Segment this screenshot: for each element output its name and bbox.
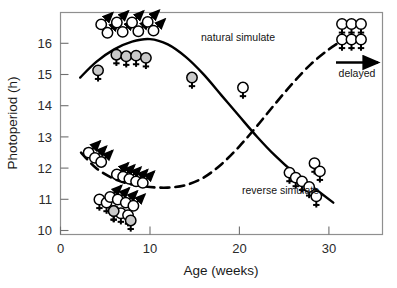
female-symbol-marker [356, 34, 366, 50]
male-symbol-marker [96, 13, 113, 30]
female-symbol-marker [337, 19, 347, 35]
y-tick-13: 13 [38, 130, 52, 145]
marker-group-reverse-mid-male-row [112, 163, 155, 188]
male-symbol-marker [127, 11, 144, 28]
female-symbol-marker [109, 206, 119, 222]
chart-canvas: 16 15 14 13 12 11 10 0 10 20 30 Age (wee… [0, 0, 397, 288]
x-tick-0: 0 [57, 241, 64, 256]
female-symbol-marker [93, 65, 103, 81]
delayed-legend: delayed [336, 19, 378, 79]
x-tick-30: 30 [322, 241, 336, 256]
female-symbol-marker [126, 215, 136, 231]
female-symbol-marker [346, 19, 356, 35]
marker-layer [83, 10, 325, 231]
marker-group-natural-mid-female-open [238, 82, 248, 98]
y-tick-14: 14 [38, 98, 52, 113]
female-symbol-marker [337, 34, 347, 50]
male-symbol-marker [138, 172, 155, 189]
male-symbol-marker [112, 11, 129, 28]
marker-group-natural-upper-male-cluster [96, 10, 165, 38]
y-tick-11: 11 [39, 192, 53, 207]
x-axis-ticks [61, 227, 329, 235]
y-tick-12: 12 [38, 161, 52, 176]
x-tick-20: 20 [232, 241, 246, 256]
x-axis-tick-labels: 0 10 20 30 [57, 241, 336, 256]
natural-simulate-label: natural simulate [201, 31, 275, 43]
y-tick-15: 15 [38, 67, 52, 82]
female-symbol-marker [238, 82, 248, 98]
female-symbol-marker [111, 50, 121, 66]
female-symbol-marker [131, 50, 141, 66]
female-symbol-marker [141, 53, 151, 69]
delayed-legend-label: delayed [339, 67, 376, 79]
female-symbol-marker [315, 166, 325, 182]
reverse-simulate-label: reverse simulate [242, 184, 319, 196]
curve-annotations: natural simulate reverse simulate [201, 31, 319, 196]
photoperiod-age-figure: 16 15 14 13 12 11 10 0 10 20 30 Age (wee… [0, 0, 397, 288]
female-symbol-marker [346, 34, 356, 50]
female-symbol-marker [356, 19, 366, 35]
y-axis-ticks [61, 43, 69, 230]
y-tick-10: 10 [38, 223, 52, 238]
marker-group-natural-right-female-cluster [284, 158, 325, 208]
marker-group-natural-mid-female [187, 72, 197, 88]
x-axis-title: Age (weeks) [183, 263, 258, 278]
series-curve-reverse-simulate [81, 40, 343, 188]
y-tick-16: 16 [38, 36, 52, 51]
marker-group-reverse-upper-left-male [83, 141, 112, 167]
female-symbol-marker [187, 72, 197, 88]
legend-female-symbols [337, 19, 366, 51]
y-axis-title: Photoperiod (h) [5, 76, 20, 169]
y-axis-tick-labels: 16 15 14 13 12 11 10 [38, 36, 52, 238]
x-tick-10: 10 [143, 241, 157, 256]
marker-group-natural-upper-female-row [93, 50, 151, 82]
female-symbol-marker [121, 51, 131, 67]
